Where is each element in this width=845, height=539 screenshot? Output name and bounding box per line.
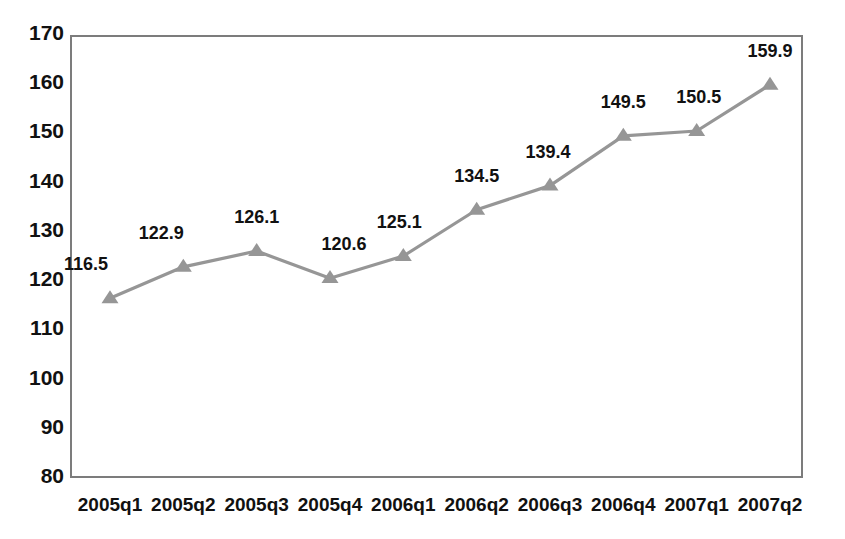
data-point-label: 134.5: [442, 166, 512, 187]
y-axis-tick-160: 160: [10, 70, 64, 94]
data-point-label: 122.9: [126, 223, 196, 244]
data-point-label: 139.4: [513, 142, 583, 163]
data-point-label: 116.5: [51, 254, 121, 275]
data-point-label: 126.1: [222, 207, 292, 228]
y-axis-tick-90: 90: [10, 415, 64, 439]
y-axis-tick-130: 130: [10, 218, 64, 242]
y-axis-tick-170: 170: [10, 21, 64, 45]
data-point-label: 159.9: [735, 41, 805, 62]
y-axis-tick-100: 100: [10, 366, 64, 390]
y-axis-tick-80: 80: [10, 464, 64, 488]
data-point-label: 150.5: [664, 87, 734, 108]
data-point-label: 149.5: [588, 92, 658, 113]
y-axis-tick-140: 140: [10, 169, 64, 193]
data-point-label: 125.1: [364, 212, 434, 233]
line-chart: 1701601501401301201101009080 2005q12005q…: [0, 0, 845, 539]
x-axis-tick-2007q2: 2007q2: [715, 494, 825, 516]
data-point-label: 120.6: [309, 234, 379, 255]
y-axis-tick-150: 150: [10, 119, 64, 143]
y-axis-tick-110: 110: [10, 316, 64, 340]
